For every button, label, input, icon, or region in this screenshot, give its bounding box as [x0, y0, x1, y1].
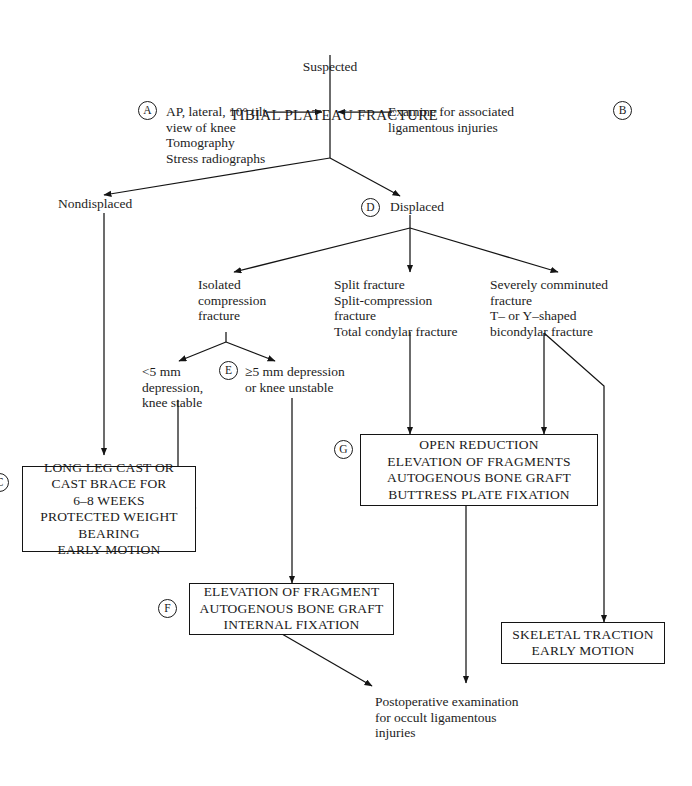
tag-b: B	[613, 101, 632, 120]
node-examine-ligaments: Examine for associated ligamentous injur…	[388, 104, 514, 135]
node-displaced: Displaced	[390, 199, 444, 215]
tag-g: G	[334, 440, 353, 459]
tag-f: F	[158, 599, 177, 618]
node-split-fracture-group: Split fracture Split-compression fractur…	[334, 277, 458, 339]
edge-to-isolated-compression	[234, 228, 410, 272]
node-nondisplaced: Nondisplaced	[58, 196, 132, 212]
edge-to-5mm-or-more	[226, 342, 275, 361]
diagram-title-sub: Suspected	[230, 59, 430, 75]
edge-to-less-than-5mm	[179, 342, 226, 361]
box-open-reduction: OPEN REDUCTION ELEVATION OF FRAGMENTS AU…	[360, 434, 598, 506]
node-less-than-5mm-depression: <5 mm depression, knee stable	[142, 364, 203, 411]
flowchart-tibial-plateau-fracture: Suspected TIBIAL PLATEAU FRACTURE A AP, …	[0, 0, 692, 786]
tag-c: C	[0, 473, 9, 492]
node-comminuted-fracture-group: Severely comminuted fracture T– or Y–sha…	[490, 277, 608, 339]
box-elevation-of-fragment: ELEVATION OF FRAGMENT AUTOGENOUS BONE GR…	[189, 583, 394, 635]
edge-elevation-to-postoperative	[282, 634, 372, 686]
node-isolated-compression-fracture: Isolated compression fracture	[198, 277, 266, 324]
box-long-leg-cast: LONG LEG CAST OR CAST BRACE FOR 6–8 WEEK…	[22, 466, 196, 552]
edge-to-displaced	[330, 158, 400, 196]
box-skeletal-traction: SKELETAL TRACTION EARLY MOTION	[501, 622, 665, 664]
node-5mm-or-more-depression: ≥5 mm depression or knee unstable	[245, 364, 345, 395]
node-postoperative-examination: Postoperative examination for occult lig…	[375, 694, 519, 741]
tag-e: E	[219, 361, 238, 380]
tag-d: D	[361, 198, 380, 217]
node-workup-imaging: AP, lateral, 10° tilt view of knee Tomog…	[166, 104, 266, 166]
edge-to-comminuted-group	[410, 228, 558, 272]
tag-a: A	[138, 101, 157, 120]
